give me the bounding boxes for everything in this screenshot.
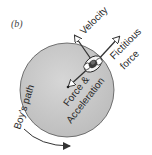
disk-center-dot bbox=[67, 86, 70, 89]
rotating-disk-diagram: (b) Velocity Fictitious force Force & Ac… bbox=[0, 0, 152, 155]
panel-label: (b) bbox=[11, 18, 23, 30]
velocity-label: Velocity bbox=[78, 4, 110, 36]
